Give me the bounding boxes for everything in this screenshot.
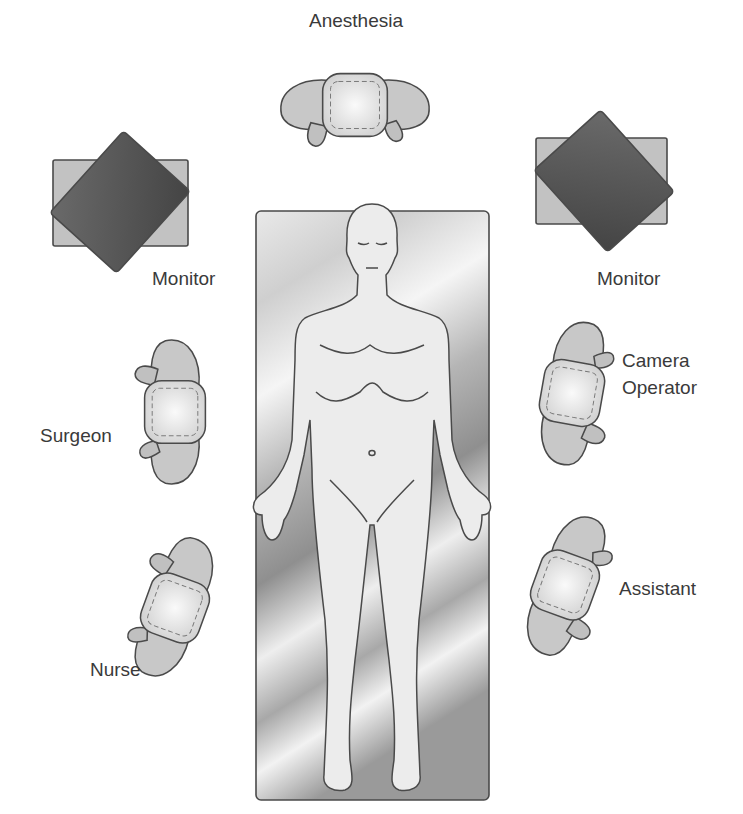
camera-operator-person-icon	[530, 317, 624, 471]
label-camera-operator-line1: Camera	[622, 350, 690, 372]
label-monitor-right: Monitor	[597, 268, 660, 290]
label-camera-operator-line2: Operator	[622, 377, 697, 399]
monitor-left-icon	[50, 131, 190, 273]
label-monitor-left: Monitor	[152, 268, 215, 290]
label-nurse: Nurse	[90, 659, 141, 681]
anesthesia-person-icon	[281, 74, 429, 147]
label-surgeon: Surgeon	[40, 425, 112, 447]
assistant-person-icon	[512, 507, 627, 666]
monitor-right-icon	[534, 110, 674, 252]
surgeon-person-icon	[135, 340, 205, 484]
label-anesthesia: Anesthesia	[309, 10, 403, 32]
label-assistant: Assistant	[619, 578, 696, 600]
diagram-canvas	[0, 0, 743, 814]
